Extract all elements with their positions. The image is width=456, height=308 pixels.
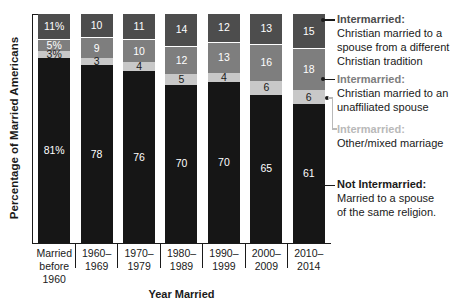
bar-segment: 14 (165, 14, 197, 47)
category-label: Marriedbefore1960 (33, 247, 75, 286)
y-axis-title: Percentage of Married Americans (8, 37, 20, 219)
legend-text-line: Christian tradition (337, 54, 455, 68)
legend-entry: Intermarried:Other/mixed marriage (337, 122, 455, 150)
category-label: 1990–1999 (203, 247, 245, 286)
bar-value-label: 6 (306, 93, 312, 102)
legend-text-line: Other/mixed marriage (337, 136, 455, 150)
bar-column: 1213470 (203, 14, 245, 243)
category-label: 1960–1969 (75, 247, 117, 286)
bar-value-label: 70 (218, 158, 230, 167)
bar-value-label: 12 (176, 56, 188, 65)
bar-segment: 70 (165, 85, 197, 243)
legend-entry: Not Intermarried:Married to a spouseof t… (337, 177, 455, 219)
bar-segment: 6 (293, 90, 325, 104)
category-labels: Marriedbefore19601960–19691970–19791980–… (33, 247, 330, 286)
category-label: 2010–2014 (288, 247, 330, 286)
x-axis-title: Year Married (33, 288, 330, 300)
bar-segment: 5 (165, 74, 197, 85)
bar-value-label: 10 (91, 21, 103, 30)
legend-entry: Intermarried:Christian married to aspous… (337, 12, 455, 68)
bar-value-label: 15 (303, 27, 315, 36)
legend-entry: Intermarried:Christian married to anunaf… (337, 72, 455, 114)
bar-segment: 61 (293, 104, 325, 243)
legend-heading: Intermarried: (337, 12, 455, 26)
bar-segment: 18 (293, 49, 325, 90)
bar-value-label: 81% (44, 146, 65, 155)
legend-connector-elbow (332, 97, 334, 129)
bar-value-label: 70 (176, 159, 188, 168)
bar-value-label: 4 (221, 73, 227, 82)
bar-segment: 4 (123, 62, 155, 71)
legend-connector-elbow (332, 128, 337, 130)
bar-segment: 13 (250, 14, 282, 45)
bar-value-label: 4 (136, 62, 142, 71)
bar-segment: 11 (123, 14, 155, 40)
bar-segment: 70 (208, 82, 240, 243)
bar-value-label: 13 (218, 53, 230, 62)
bar-segment: 6 (250, 81, 282, 95)
bar-segment: 76 (123, 71, 155, 243)
bar-segment: 11% (38, 14, 70, 40)
bar-value-label: 76 (133, 153, 145, 162)
bar-segment: 81% (38, 58, 70, 243)
bar-value-label: 78 (91, 150, 103, 159)
bar-segment: 10 (81, 14, 113, 38)
legend-text-line: Christian married to a (337, 26, 455, 40)
bar-value-label: 9 (94, 44, 100, 53)
bar-column: 1412570 (160, 14, 202, 243)
bar-value-label: 5 (179, 75, 185, 84)
bar-value-label: 14 (176, 25, 188, 34)
bar-value-label: 16 (260, 58, 272, 67)
bar-value-label: 6 (263, 83, 269, 92)
bar-segment: 65 (250, 95, 282, 243)
bar-column: 109378 (75, 14, 117, 243)
stacked-bar: 1110476 (123, 14, 155, 243)
bar-segment: 15 (293, 14, 325, 49)
bar-segment: 16 (250, 45, 282, 81)
bar-segment: 3% (38, 51, 70, 58)
bar-value-label: 10 (133, 47, 145, 56)
bar-value-label: 61 (303, 169, 315, 178)
bar-value-label: 13 (260, 24, 272, 33)
legend-text-line: of the same religion. (337, 205, 455, 219)
stacked-bar: 1213470 (208, 14, 240, 243)
stacked-bar: 1518661 (293, 14, 325, 243)
bar-value-label: 65 (260, 164, 272, 173)
category-label: 1980–1989 (160, 247, 202, 286)
bar-segment: 10 (123, 40, 155, 63)
stacked-bar-chart: Percentage of Married Americans 11%5%3%8… (0, 0, 456, 308)
legend-text-line: unaffiliated spouse (337, 100, 455, 114)
bar-segment: 12 (208, 14, 240, 43)
stacked-bar: 1412570 (165, 14, 197, 243)
bar-column: 11%5%3%81% (33, 14, 75, 243)
bar-column: 1518661 (288, 14, 330, 243)
legend-heading: Intermarried: (337, 122, 455, 136)
stacked-bar: 109378 (81, 14, 113, 243)
bar-segment: 12 (165, 47, 197, 74)
stacked-bar: 1316665 (250, 14, 282, 243)
category-label: 1970–1979 (118, 247, 160, 286)
plot-area: 11%5%3%81%109378111047614125701213470131… (33, 14, 330, 243)
category-label: 2000–2009 (245, 247, 287, 286)
bar-column: 1316665 (245, 14, 287, 243)
bar-value-label: 11% (44, 22, 64, 31)
bar-segment: 3 (81, 58, 113, 65)
legend-text-line: Married to a spouse (337, 191, 455, 205)
legend-text-line: Christian married to an (337, 86, 455, 100)
legend-heading: Intermarried: (337, 72, 455, 86)
legend-heading: Not Intermarried: (337, 177, 455, 191)
bar-value-label: 12 (218, 23, 230, 32)
stacked-bar: 11%5%3%81% (38, 14, 70, 243)
legend-text-line: spouse from a different (337, 40, 455, 54)
bar-segment: 13 (208, 43, 240, 73)
bar-value-label: 11 (134, 22, 145, 31)
bar-segment: 4 (208, 73, 240, 82)
bar-value-label: 18 (303, 65, 315, 74)
bar-segment: 78 (81, 65, 113, 243)
bar-column: 1110476 (118, 14, 160, 243)
